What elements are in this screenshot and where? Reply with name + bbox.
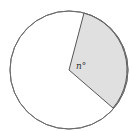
angle-label: n°	[76, 61, 86, 71]
circle-sector-diagram: n°	[0, 0, 132, 131]
